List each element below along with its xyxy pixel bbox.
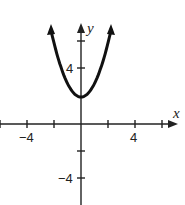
y-axis-arrow-icon — [77, 23, 85, 33]
graph: y x −4 4 4 −4 — [0, 0, 185, 205]
y-axis-label: y — [85, 20, 94, 36]
y-tick-label-4: 4 — [66, 61, 73, 76]
x-axis — [0, 120, 178, 128]
curve-left-arrow-icon — [47, 24, 55, 35]
curve-right-arrow-icon — [107, 24, 115, 35]
x-tick-label-4: 4 — [130, 130, 137, 145]
x-axis-label: x — [172, 105, 180, 121]
x-tick-label-neg4: −4 — [19, 130, 34, 145]
x-axis-arrow-icon — [168, 120, 178, 128]
y-axis — [77, 23, 85, 205]
y-tick-label-neg4: −4 — [58, 171, 73, 186]
